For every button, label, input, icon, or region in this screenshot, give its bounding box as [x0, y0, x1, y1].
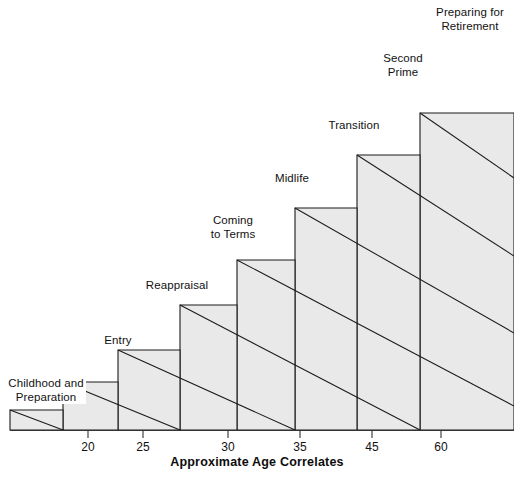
axis-title: Approximate Age Correlates [0, 455, 514, 469]
staircase-svg [0, 0, 514, 488]
axis-tick-label-60: 60 [426, 440, 456, 454]
axis-group [10, 430, 514, 438]
step-face-coming-to-terms [180, 305, 237, 430]
staircase-diagram: Childhood and Preparation Entry Reapprai… [0, 0, 514, 488]
step-label-coming-to-terms: Coming to Terms [203, 214, 263, 241]
axis-tick-label-45: 45 [357, 440, 387, 454]
step-label-reappraisal: Reappraisal [140, 279, 214, 293]
step-face-second-prime [357, 155, 420, 430]
step-label-midlife: Midlife [268, 172, 316, 186]
step-label-transition: Transition [322, 119, 386, 133]
step-label-childhood-and-preparation: Childhood and Preparation [6, 377, 86, 404]
axis-tick-label-35: 35 [285, 440, 315, 454]
step-label-preparing-for-retirement: Preparing for Retirement [429, 6, 511, 33]
step-face-reappraisal [118, 350, 180, 430]
step-face-transition [295, 208, 357, 430]
axis-tick-label-30: 30 [213, 440, 243, 454]
step-face-preparing-for-retirement [420, 113, 514, 430]
axis-tick-label-25: 25 [128, 440, 158, 454]
step-label-second-prime: Second Prime [377, 52, 429, 79]
axis-tick-label-20: 20 [73, 440, 103, 454]
step-label-entry: Entry [95, 334, 141, 348]
